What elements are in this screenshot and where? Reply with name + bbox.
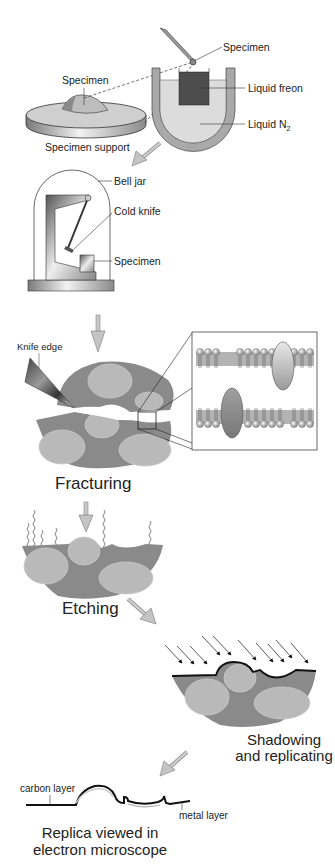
membrane-inset	[192, 332, 317, 450]
label-specimen-support-specimen: Specimen	[62, 74, 109, 86]
caption-electron-microscope: electron microscope	[33, 841, 167, 858]
label-liquid-n2: Liquid N2	[248, 118, 291, 132]
flow-arrow-1	[132, 143, 160, 166]
caption-replica-viewed: Replica viewed in	[42, 824, 159, 841]
caption-fracturing: Fracturing	[55, 474, 132, 493]
flow-arrow-4	[160, 752, 187, 776]
step6-replica: carbon layer metal layer Replica viewed …	[20, 783, 229, 858]
forceps-icon	[160, 28, 194, 62]
dewar-flask	[152, 68, 235, 152]
caption-shadowing: Shadowing	[247, 731, 321, 748]
label-bell-jar: Bell jar	[114, 175, 147, 187]
shadowing-arrows	[165, 636, 308, 664]
flow-arrow-2	[91, 315, 105, 352]
freon-container	[179, 72, 209, 105]
label-specimen-forceps: Specimen	[223, 41, 270, 53]
label-cold-knife: Cold knife	[114, 205, 161, 217]
label-knife-edge: Knife edge	[17, 341, 62, 352]
step4-etching: Etching	[22, 502, 163, 618]
caption-etching: Etching	[62, 599, 119, 618]
step3-fracturing: Knife edge	[17, 332, 317, 493]
specimen-support-disc	[26, 95, 146, 138]
step1-freezing: Specimen Specimen Liquid freon Liquid N2…	[26, 28, 303, 153]
specimen-block	[80, 255, 94, 272]
step2-bell-jar: Bell jar Cold knife Specimen	[28, 170, 161, 291]
membrane-protein-lower	[221, 388, 243, 438]
label-specimen-block: Specimen	[114, 255, 161, 267]
label-metal-layer: metal layer	[179, 810, 229, 821]
label-specimen-support: Specimen support	[45, 141, 130, 153]
step5-shadowing: Shadowing and replicating	[165, 636, 333, 764]
lipid-heads-upper	[197, 349, 314, 356]
bell-jar-base	[28, 280, 114, 291]
caption-and-replicating: and replicating	[235, 747, 333, 764]
label-carbon-layer: carbon layer	[20, 783, 76, 794]
flow-arrow-3	[128, 599, 156, 624]
bell-jar-dome	[34, 170, 110, 280]
label-liquid-freon: Liquid freon	[248, 82, 303, 94]
lipid-heads-lower	[197, 421, 314, 428]
membrane-protein-upper	[272, 342, 294, 390]
freeze-fracture-diagram: Specimen Specimen Liquid freon Liquid N2…	[0, 0, 335, 867]
